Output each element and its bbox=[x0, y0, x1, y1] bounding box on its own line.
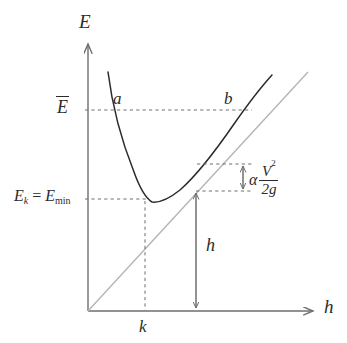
velocity-head-fraction: V2 2g bbox=[259, 163, 278, 198]
velocity-head-denominator: 2g bbox=[259, 182, 278, 197]
diagram-canvas bbox=[0, 0, 347, 343]
critical-depth-label: k bbox=[139, 318, 147, 335]
specific-energy-figure: E h E Ek = Emin a b k h α V2 2g bbox=[0, 0, 347, 343]
e-axis-label: E bbox=[79, 12, 91, 31]
e-min-equals: = bbox=[32, 188, 41, 204]
e-min-label: Ek = Emin bbox=[14, 188, 71, 204]
axis-group bbox=[88, 44, 313, 311]
h-axis-label: h bbox=[324, 297, 334, 316]
velocity-head-label: α V2 2g bbox=[249, 163, 278, 198]
e-min-second: E bbox=[45, 188, 55, 204]
e-min-subscript: k bbox=[24, 196, 28, 206]
branch-label-a: a bbox=[113, 90, 122, 107]
velocity-head-numerator: V2 bbox=[260, 163, 278, 179]
e-bar-glyph: E bbox=[57, 96, 68, 116]
e-min-main: E bbox=[14, 188, 24, 204]
velocity-exponent: 2 bbox=[271, 158, 276, 168]
e-bar-label: E bbox=[57, 96, 68, 116]
velocity-symbol: V bbox=[262, 163, 271, 179]
branch-label-b: b bbox=[224, 90, 233, 107]
e-min-second-subscript: min bbox=[55, 196, 71, 206]
depth-label: h bbox=[206, 236, 215, 254]
alpha-glyph: α bbox=[249, 172, 257, 188]
